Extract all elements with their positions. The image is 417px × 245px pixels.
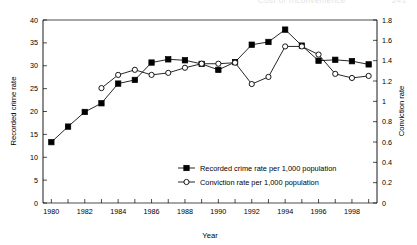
data-point bbox=[182, 58, 187, 63]
y-tick-label-right: 1.8 bbox=[382, 16, 392, 25]
y-tick-label-left: 20 bbox=[30, 107, 38, 116]
y-tick-label-left: 10 bbox=[30, 153, 38, 162]
data-point bbox=[349, 75, 354, 80]
y-tick-label-left: 40 bbox=[30, 16, 38, 25]
x-tick-label: 1992 bbox=[244, 207, 260, 216]
data-point bbox=[232, 60, 237, 65]
x-axis-ticks: 1980198219841986198819901992199419961998 bbox=[43, 199, 368, 216]
data-point bbox=[366, 73, 371, 78]
data-point bbox=[65, 124, 70, 129]
y-tick-label-left: 0 bbox=[34, 199, 38, 208]
data-point bbox=[149, 72, 154, 77]
x-tick-label: 1982 bbox=[77, 207, 93, 216]
data-point bbox=[182, 65, 187, 70]
running-header-title: Cost of Inconvenience bbox=[258, 0, 346, 4]
y-tick-label-right: 0.4 bbox=[382, 158, 392, 167]
data-point bbox=[249, 81, 254, 86]
page-number: 241 bbox=[392, 0, 407, 4]
data-point bbox=[166, 57, 171, 62]
data-point bbox=[199, 61, 204, 66]
plot-frame bbox=[43, 20, 377, 203]
data-point bbox=[216, 61, 221, 66]
data-point bbox=[216, 67, 221, 72]
x-tick-label: 1980 bbox=[43, 207, 59, 216]
series-2 bbox=[99, 44, 371, 91]
y-tick-label-right: 0.8 bbox=[382, 117, 392, 126]
y-tick-label-right: 1.2 bbox=[382, 77, 392, 86]
y-axis-right-title: Conviction rate bbox=[397, 86, 406, 137]
chart-legend: Recorded crime rate per 1,000 population… bbox=[178, 164, 336, 187]
y-tick-label-right: 1.4 bbox=[382, 56, 392, 65]
data-point bbox=[366, 62, 371, 67]
x-tick-label: 1988 bbox=[177, 207, 193, 216]
data-point bbox=[149, 60, 154, 65]
data-point bbox=[333, 57, 338, 62]
data-point bbox=[316, 58, 321, 63]
legend-label: Recorded crime rate per 1,000 population bbox=[200, 164, 336, 173]
data-point bbox=[349, 58, 354, 63]
y-axis-right-ticks: 00.20.40.60.811.21.41.61.8 bbox=[373, 16, 392, 208]
data-point bbox=[283, 44, 288, 49]
x-tick-label: 1998 bbox=[344, 207, 360, 216]
y-axis-left-title: Recorded crime rate bbox=[9, 77, 18, 146]
data-point bbox=[266, 39, 271, 44]
chart-figure: Cost of Inconvenience 241 05101520253035… bbox=[0, 0, 417, 245]
data-point bbox=[266, 74, 271, 79]
data-point bbox=[166, 70, 171, 75]
legend-marker-filled-square bbox=[184, 165, 189, 170]
line-chart: 0510152025303540 00.20.40.60.811.21.41.6… bbox=[0, 0, 417, 245]
legend-marker-open-circle bbox=[184, 179, 189, 184]
data-point bbox=[333, 71, 338, 76]
y-tick-label-right: 1.6 bbox=[382, 36, 392, 45]
y-tick-label-right: 0 bbox=[382, 199, 386, 208]
x-tick-label: 1996 bbox=[311, 207, 327, 216]
x-tick-label: 1990 bbox=[210, 207, 226, 216]
data-point bbox=[316, 52, 321, 57]
page-running-header: Cost of Inconvenience 241 bbox=[0, 0, 417, 4]
data-point bbox=[299, 44, 304, 49]
series-1 bbox=[49, 27, 372, 145]
y-tick-label-right: 1 bbox=[382, 97, 386, 106]
series-line bbox=[51, 30, 368, 143]
legend-entry-2: Conviction rate per 1,000 population bbox=[178, 178, 319, 187]
y-tick-label-right: 0.2 bbox=[382, 178, 392, 187]
data-point bbox=[115, 81, 120, 86]
y-tick-label-left: 5 bbox=[34, 176, 38, 185]
data-point bbox=[99, 86, 104, 91]
data-point bbox=[82, 109, 87, 114]
legend-entry-1: Recorded crime rate per 1,000 population bbox=[178, 164, 336, 173]
legend-label: Conviction rate per 1,000 population bbox=[200, 178, 319, 187]
x-tick-label: 1984 bbox=[110, 207, 126, 216]
y-tick-label-left: 15 bbox=[30, 130, 38, 139]
data-point bbox=[132, 67, 137, 72]
data-point bbox=[249, 42, 254, 47]
data-point bbox=[49, 139, 54, 144]
y-tick-label-left: 25 bbox=[30, 84, 38, 93]
series-line bbox=[101, 46, 368, 88]
y-tick-label-left: 35 bbox=[30, 38, 38, 47]
data-point bbox=[99, 101, 104, 106]
data-point bbox=[132, 77, 137, 82]
x-axis-title: Year bbox=[202, 231, 218, 240]
x-tick-label: 1986 bbox=[144, 207, 160, 216]
x-tick-label: 1994 bbox=[277, 207, 293, 216]
series-layer bbox=[49, 27, 372, 145]
data-point bbox=[282, 27, 287, 32]
data-point bbox=[116, 72, 121, 77]
y-tick-label-right: 0.6 bbox=[382, 138, 392, 147]
y-tick-label-left: 30 bbox=[30, 61, 38, 70]
y-axis-left-ticks: 0510152025303540 bbox=[30, 16, 47, 208]
